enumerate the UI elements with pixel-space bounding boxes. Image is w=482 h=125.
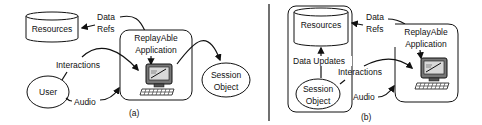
- interactions-label-b: Interactions: [338, 67, 382, 77]
- resources-label-b: Resources: [301, 20, 342, 30]
- audio-label: Audio: [74, 97, 96, 107]
- session-interactions-connector: [340, 80, 345, 84]
- user-interactions-connector: [62, 72, 67, 80]
- data-refs-label-b-line2: Refs: [366, 24, 383, 34]
- audio-arrow: [100, 88, 119, 100]
- resources-label: Resources: [32, 24, 73, 34]
- panel-a: Resources Data Refs ReplayAble Applicati…: [26, 12, 250, 118]
- data-refs-label-b-line1: Data: [366, 12, 384, 22]
- session-label-b-line1: Session: [303, 84, 334, 94]
- resources-cylinder-b: Resources: [294, 8, 348, 46]
- caption-a: (a): [129, 108, 140, 118]
- session-label-b-line2: Object: [306, 96, 331, 106]
- user-audio-connector: [66, 98, 72, 101]
- data-updates-label: Data Updates: [293, 56, 345, 66]
- user-label: User: [39, 87, 57, 97]
- resources-cylinder: Resources: [26, 12, 78, 42]
- data-refs-label-line1: Data: [97, 12, 115, 22]
- panel-b: Resources Data Refs ReplayAble Applicati…: [288, 6, 458, 122]
- session-label-line1: Session: [211, 70, 242, 80]
- app-label-line1: ReplayAble: [134, 33, 178, 43]
- app-label-line2: Application: [135, 45, 177, 55]
- app-label-b-line1: ReplayAble: [404, 27, 448, 37]
- app-label-b-line2: Application: [405, 39, 447, 49]
- caption-b: (b): [361, 112, 372, 122]
- diagram-canvas: Resources Data Refs ReplayAble Applicati…: [0, 0, 482, 125]
- interactions-label: Interactions: [56, 60, 100, 70]
- data-refs-connector-b: [388, 19, 405, 24]
- data-refs-connector: [120, 16, 145, 31]
- data-refs-arrow: [82, 25, 95, 28]
- data-refs-label-line2: Refs: [97, 24, 114, 34]
- audio-arrow-b: [378, 86, 394, 97]
- audio-label-b: Audio: [353, 92, 375, 102]
- session-label-line2: Object: [214, 82, 239, 92]
- data-refs-arrow-b: [352, 23, 363, 25]
